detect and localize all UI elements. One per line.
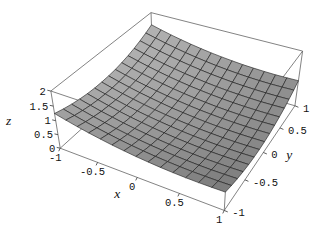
z-tick-label: 1 xyxy=(44,115,50,127)
x-tick-label: 0 xyxy=(129,181,135,193)
x-tick-label: 0.5 xyxy=(165,197,184,209)
tick-mark xyxy=(47,90,51,91)
tick-mark xyxy=(96,162,98,165)
y-tick-label: -0.5 xyxy=(253,177,278,189)
y-tick-label: 1 xyxy=(303,103,309,115)
z-tick-label: 2 xyxy=(40,86,46,98)
tick-mark xyxy=(136,177,138,180)
tick-mark xyxy=(263,152,267,154)
tick-mark xyxy=(54,134,58,135)
y-axis-label: y xyxy=(284,147,292,162)
z-tick-label: 1.5 xyxy=(29,101,48,113)
z-tick-label: 0.5 xyxy=(34,129,53,141)
y-tick-label: 0 xyxy=(271,149,277,161)
tick-mark xyxy=(223,210,225,213)
z-tick-label: 0 xyxy=(49,143,55,155)
tick-mark xyxy=(50,105,54,106)
tick-mark xyxy=(245,180,249,182)
x-axis-label: x xyxy=(113,186,120,201)
x-tick-label: -0.5 xyxy=(80,166,105,178)
x-tick-label: 1 xyxy=(216,214,222,226)
plot3d-canvas: -1-0.500.51-1-0.500.5100.511.52xyz xyxy=(0,0,320,233)
tick-mark xyxy=(57,147,61,148)
tick-mark xyxy=(59,148,61,151)
tick-mark xyxy=(178,193,180,196)
tick-mark xyxy=(295,106,299,108)
tick-mark xyxy=(224,210,228,212)
surface-plot-figure: -1-0.500.51-1-0.500.5100.511.52xyz xyxy=(0,0,320,233)
tick-mark xyxy=(52,120,56,121)
tick-mark xyxy=(280,128,284,130)
z-axis-label: z xyxy=(5,113,12,128)
y-tick-label: 0.5 xyxy=(288,125,307,137)
y-tick-label: -1 xyxy=(232,207,245,219)
